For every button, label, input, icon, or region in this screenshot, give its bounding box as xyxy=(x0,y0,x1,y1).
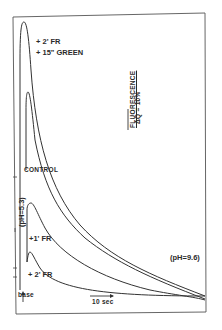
chart-canvas xyxy=(0,0,222,330)
label-fr-green-2: + 15" GREEN xyxy=(36,48,83,57)
label-ph-right: (pH=9.6) xyxy=(170,253,200,262)
label-fr-green-1: + 2' FR xyxy=(36,37,61,46)
curve-control xyxy=(26,92,205,299)
label-fr2: + 2' FR xyxy=(28,270,53,279)
label-fluorescence-scale: ΔQ = 10% xyxy=(134,91,141,124)
label-control: CONTROL xyxy=(24,166,58,173)
chart-frame xyxy=(13,13,206,314)
label-time-scale: 10 sec xyxy=(92,298,114,305)
label-ph-left: (pH=5.3) xyxy=(17,197,26,227)
label-base: base xyxy=(18,291,34,298)
label-fr1: +1' FR xyxy=(29,234,51,243)
